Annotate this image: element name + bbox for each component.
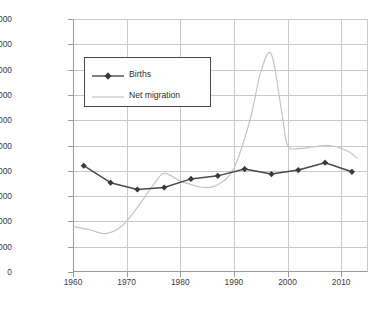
x-axis-tick-label: 1980 (160, 278, 200, 286)
x-axis-tick (180, 272, 181, 277)
y-axis-tick-label: 4,000,000 (0, 167, 12, 175)
series-births (81, 160, 355, 193)
x-axis-tick (234, 272, 235, 277)
y-axis-tick-label: 7,000,000 (0, 91, 12, 99)
x-axis-tick-label: 2000 (268, 278, 308, 286)
data-point-marker (268, 171, 274, 177)
y-axis-tick-label: 1,000,000 (0, 243, 12, 251)
x-axis-tick (127, 272, 128, 277)
data-point-marker (349, 169, 355, 175)
legend-item-births: Births (91, 63, 204, 84)
legend-item-net-migration: Net migration (91, 84, 204, 105)
x-axis-tick-label: 1960 (53, 278, 93, 286)
x-axis-tick (288, 272, 289, 277)
data-point-marker (215, 173, 221, 179)
y-axis-tick-label: 5,000,000 (0, 142, 12, 150)
data-point-marker (322, 160, 328, 166)
chart-legend: Births Net migration (84, 57, 211, 107)
y-axis-tick-label: 10,000,000 (0, 15, 12, 23)
y-axis-tick-label: 2,000,000 (0, 217, 12, 225)
data-point-marker (295, 167, 301, 173)
legend-swatch-births (91, 68, 125, 80)
y-axis-tick-label: 8,000,000 (0, 66, 12, 74)
data-point-marker (134, 186, 140, 192)
x-axis-tick-label: 1970 (107, 278, 147, 286)
data-point-marker (161, 184, 167, 190)
legend-swatch-net-migration (91, 89, 125, 101)
x-axis-tick-label: 2010 (321, 278, 361, 286)
data-point-marker (188, 176, 194, 182)
births-legend-glyph (91, 70, 125, 82)
net-migration-legend-glyph (91, 91, 125, 103)
x-axis-tick (73, 272, 74, 277)
x-axis-tick-label: 1990 (214, 278, 254, 286)
data-point-marker (242, 166, 248, 172)
x-axis-tick (341, 272, 342, 277)
y-axis-tick-label: 9,000,000 (0, 40, 12, 48)
y-axis-tick-label: 6,000,000 (0, 116, 12, 124)
line-chart: 01,000,0002,000,0003,000,0004,000,0005,0… (0, 0, 383, 309)
legend-label-net-migration: Net migration (129, 90, 180, 100)
legend-label-births: Births (129, 69, 151, 79)
y-axis-tick-label: 0 (0, 268, 12, 276)
y-axis-tick-label: 3,000,000 (0, 192, 12, 200)
